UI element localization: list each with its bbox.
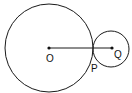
label-o: O <box>46 53 54 64</box>
point-o <box>47 46 50 49</box>
label-q: Q <box>114 49 122 60</box>
label-p: P <box>91 63 98 74</box>
tangent-circles-diagram: O P Q <box>0 0 132 93</box>
